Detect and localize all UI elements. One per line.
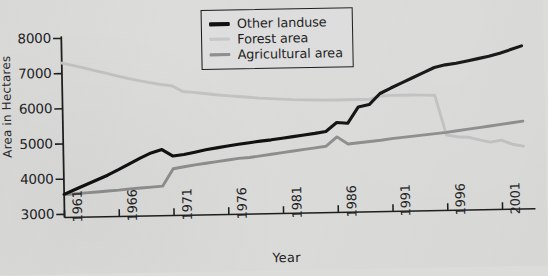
legend-swatch-agricultural-area: [210, 53, 231, 57]
legend-item-other-landuse: Other landuse: [209, 14, 342, 32]
legend-label: Agricultural area: [237, 45, 343, 62]
chart-legend: Other landuse Forest area Agricultural a…: [201, 7, 354, 70]
x-tick-label: 1991: [398, 184, 414, 216]
legend-label: Other landuse: [237, 14, 327, 31]
x-axis-title: Year: [272, 249, 300, 265]
legend-swatch-other-landuse: [209, 21, 230, 26]
x-tick-label: 1996: [453, 183, 469, 215]
x-tick-label: 1961: [69, 190, 85, 222]
x-tick-label: 2001: [507, 182, 523, 214]
legend-item-agricultural-area: Agricultural area: [209, 45, 342, 63]
legend-label: Forest area: [237, 30, 308, 47]
x-tick-label: 1966: [124, 189, 140, 221]
legend-swatch-forest-area: [209, 37, 230, 41]
x-tick-label: 1981: [288, 186, 304, 218]
x-tick-label: 1986: [343, 185, 359, 217]
chart-figure: Area in Hectares 8000 7000 6000 5000 400…: [0, 0, 548, 276]
x-tick-label: 1971: [179, 188, 195, 220]
series-line-forest-area: [62, 55, 524, 155]
x-tick-label: 1976: [234, 187, 250, 219]
